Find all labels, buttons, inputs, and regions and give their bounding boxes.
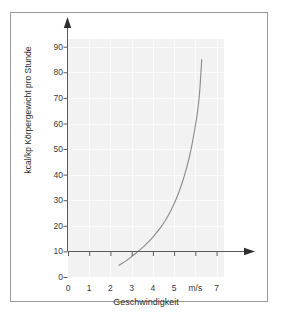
y-tick-label: 0 xyxy=(58,272,63,282)
x-axis-tick-labels: 012345m/s7 xyxy=(11,283,269,297)
x-tick-label: 1 xyxy=(87,283,92,293)
y-tick-label: 10 xyxy=(54,246,63,256)
x-tick-label: m/s xyxy=(188,283,202,293)
y-tick-label: 40 xyxy=(54,170,63,180)
y-tick-label: 60 xyxy=(54,119,63,129)
x-tick-label: 4 xyxy=(151,283,156,293)
x-axis-title: Geschwindigkeit xyxy=(68,297,224,307)
y-axis-title: kcal/kp Körpergewicht pro Stunde xyxy=(23,30,33,190)
y-tick-label: 20 xyxy=(54,221,63,231)
y-tick-label: 30 xyxy=(54,195,63,205)
y-tick-label: 50 xyxy=(54,144,63,154)
x-tick-label: 5 xyxy=(172,283,177,293)
x-tick-label: 0 xyxy=(66,283,71,293)
y-tick-label: 70 xyxy=(54,93,63,103)
plot-area xyxy=(68,39,224,277)
y-axis-tick-labels: 0102030405060708090 xyxy=(29,39,63,277)
figure-root: 0102030405060708090 012345m/s7 kcal/kp K… xyxy=(0,0,281,316)
y-tick-label: 80 xyxy=(54,67,63,77)
x-tick-label: 2 xyxy=(108,283,113,293)
chart-frame: 0102030405060708090 012345m/s7 kcal/kp K… xyxy=(10,12,268,302)
x-tick-label: 3 xyxy=(129,283,134,293)
y-tick-label: 90 xyxy=(54,42,63,52)
x-tick-label: 7 xyxy=(214,283,219,293)
data-curve xyxy=(68,39,224,277)
